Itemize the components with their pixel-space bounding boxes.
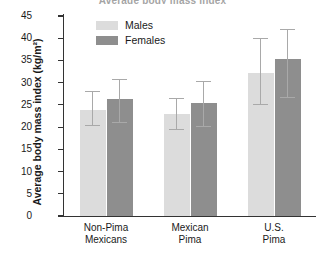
y-axis-tick-label: 15 [8,144,32,154]
error-bar [119,79,120,123]
x-axis-line [63,216,316,217]
error-bar-cap-upper [253,38,268,39]
y-axis-tick-label: 30 [8,78,32,88]
error-bar [203,82,204,127]
y-axis-tick-label: 45 [8,11,32,21]
legend-item-males: Males [96,18,165,33]
error-bar-cap-upper [85,91,100,92]
error-bar [260,38,261,105]
error-bar-cap-upper [169,98,184,99]
legend-item-females: Females [96,33,165,48]
y-axis-tick-label: 20 [8,122,32,132]
legend-label-males: Males [125,20,153,31]
error-bar-cap-lower [253,104,268,105]
error-bar-cap-lower [85,125,100,126]
error-bar-cap-lower [169,129,184,130]
error-bar [92,91,93,125]
x-axis-group-label: U.S. Pima [232,222,316,245]
y-axis-tick-label: 5 [8,189,32,199]
y-axis-ticks: 051015202530354045 [0,0,58,256]
legend-label-females: Females [125,35,165,46]
y-axis-tick-label: 0 [8,211,32,221]
y-axis-tick-label: 25 [8,100,32,110]
x-axis-group-label: Mexican Pima [148,222,232,245]
error-bar-cap-lower [196,126,211,127]
error-bar-cap-lower [112,122,127,123]
chart-legend: Males Females [96,18,165,48]
error-bar [176,99,177,130]
legend-swatch-females-icon [96,36,118,45]
y-axis-tick-label: 40 [8,33,32,43]
y-axis-title: Average body mass index (kg/m²) [31,22,43,222]
bar-chart: 051015202530354045 Average body mass ind… [0,0,325,256]
error-bar [287,29,288,97]
error-bar-cap-upper [196,81,211,82]
y-axis-tick-label: 35 [8,55,32,65]
y-axis-tick-label: 10 [8,167,32,177]
legend-swatch-males-icon [96,21,118,30]
error-bar-cap-lower [280,97,295,98]
x-axis-group-label: Non-Pima Mexicans [64,222,148,245]
error-bar-cap-upper [112,79,127,80]
error-bar-cap-upper [280,29,295,30]
